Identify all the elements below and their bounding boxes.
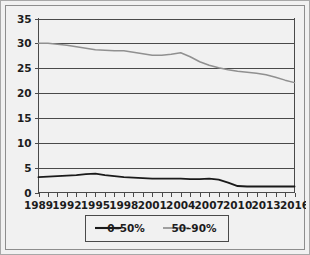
- y-tick-label-5: 5: [24, 162, 31, 174]
- x-tick-label-1995: 1995: [81, 199, 110, 211]
- x-tick-label-2010: 2010: [223, 199, 252, 211]
- y-axis-ticks: [35, 20, 39, 194]
- legend-label-0: 0–50%: [107, 222, 145, 234]
- plot-area-background: [38, 18, 295, 192]
- chart-figure-inner: 05101520253035 1989199219951998200120042…: [5, 5, 305, 250]
- x-tick-label-2016: 2016: [280, 199, 306, 211]
- x-tick-label-2013: 2013: [251, 199, 280, 211]
- line-chart: 05101520253035 1989199219951998200120042…: [6, 6, 306, 251]
- x-tick-label-2007: 2007: [195, 199, 224, 211]
- y-tick-label-15: 15: [17, 112, 32, 124]
- y-tick-label-30: 30: [17, 37, 32, 49]
- chart-figure: 05101520253035 1989199219951998200120042…: [0, 0, 310, 255]
- y-tick-label-0: 0: [24, 187, 31, 199]
- x-tick-label-2001: 2001: [138, 199, 167, 211]
- legend-label-1: 50–90%: [172, 222, 217, 234]
- chart-legend: 0–50%50–90%: [85, 215, 228, 241]
- x-tick-label-1989: 1989: [24, 199, 53, 211]
- x-tick-label-1998: 1998: [109, 199, 138, 211]
- x-tick-label-1992: 1992: [52, 199, 81, 211]
- x-axis-tick-labels: 1989199219951998200120042007201020132016: [24, 199, 306, 211]
- y-tick-label-35: 35: [17, 13, 32, 25]
- x-axis-minor-ticks: [40, 193, 296, 197]
- x-tick-label-2004: 2004: [166, 199, 195, 211]
- y-tick-label-20: 20: [17, 87, 32, 99]
- y-tick-label-10: 10: [17, 137, 32, 149]
- y-tick-label-25: 25: [17, 62, 32, 74]
- y-axis-tick-labels: 05101520253035: [17, 13, 32, 199]
